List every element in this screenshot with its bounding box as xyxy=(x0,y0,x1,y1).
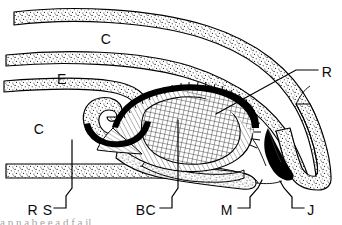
label-e: E xyxy=(57,72,67,86)
label-rs: R S xyxy=(27,203,52,217)
label-c-upper: C xyxy=(101,32,112,46)
figure-root: C E C R R S BC M J a p n a b e e a d f a… xyxy=(0,0,342,225)
label-m: M xyxy=(221,203,233,217)
label-r: R xyxy=(322,65,333,79)
anatomical-drawing xyxy=(0,0,342,225)
label-j: J xyxy=(307,203,315,217)
label-bc: BC xyxy=(136,203,157,217)
label-c-lower: C xyxy=(34,122,45,136)
